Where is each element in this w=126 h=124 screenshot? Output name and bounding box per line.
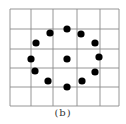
dot xyxy=(46,29,53,36)
dot xyxy=(77,30,84,37)
dot xyxy=(78,77,85,84)
dot-ring-pattern xyxy=(27,25,102,90)
dot xyxy=(27,55,34,62)
dot xyxy=(44,77,51,84)
dot xyxy=(63,55,70,62)
figure-caption: (b) xyxy=(0,107,126,118)
dot-grid-diagram xyxy=(0,0,126,124)
dot xyxy=(91,39,98,46)
dot xyxy=(63,25,70,32)
dot xyxy=(95,53,102,60)
dot xyxy=(31,67,38,74)
dot xyxy=(32,39,39,46)
dot xyxy=(63,83,70,90)
dot xyxy=(91,68,98,75)
